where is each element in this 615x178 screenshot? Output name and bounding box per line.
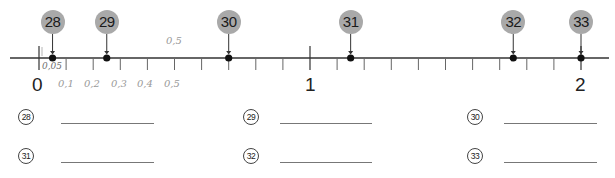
point-dot — [103, 54, 110, 61]
point-bubble-28: 28 — [41, 10, 65, 34]
arrow-head-icon — [348, 51, 353, 55]
point-dot — [510, 54, 517, 61]
arrow-head-icon — [226, 51, 231, 55]
point-bubble-30: 30 — [217, 10, 241, 34]
answer-field-30[interactable] — [504, 123, 597, 124]
answer-label-29: 29 — [243, 109, 259, 125]
point-dot — [347, 54, 354, 61]
answer-label-33: 33 — [467, 148, 483, 164]
answer-field-32[interactable] — [280, 162, 372, 163]
answer-field-33[interactable] — [504, 162, 597, 163]
axis-label-two: 2 — [575, 75, 586, 94]
axis-label-one: 1 — [305, 75, 316, 94]
point-dot — [577, 54, 584, 61]
answer-label-32: 32 — [243, 148, 259, 164]
pencil-note-tick-2: 0,2 — [84, 79, 100, 89]
point-bubble-33: 33 — [569, 10, 593, 34]
answer-field-28[interactable] — [61, 123, 154, 124]
arrow-head-icon — [104, 51, 109, 55]
arrow-head-icon — [579, 51, 584, 55]
arrow-head-icon — [50, 51, 55, 55]
answer-label-28: 28 — [18, 109, 34, 125]
axis-label-zero: 0 — [32, 75, 43, 94]
pencil-note-tick-5: 0,5 — [164, 79, 180, 89]
point-bubble-31: 31 — [339, 10, 363, 34]
answer-label-31: 31 — [18, 148, 34, 164]
pencil-note-first-point: 0,05 — [42, 62, 62, 71]
answer-label-30: 30 — [467, 109, 483, 125]
point-dot — [225, 54, 232, 61]
pencil-note-tick-3: 0,3 — [111, 79, 127, 89]
answer-field-29[interactable] — [280, 123, 372, 124]
pencil-note-tick-1: 0,1 — [58, 79, 74, 89]
number-line-exercise: 0 1 2 0,5 0,05 0,1 0,2 0,3 0,4 0,5 28 29… — [0, 0, 615, 178]
answer-field-31[interactable] — [61, 162, 154, 163]
point-bubble-29: 29 — [95, 10, 119, 34]
pencil-note-half-above: 0,5 — [166, 36, 182, 46]
pencil-note-tick-4: 0,4 — [137, 79, 153, 89]
arrow-head-icon — [511, 51, 516, 55]
